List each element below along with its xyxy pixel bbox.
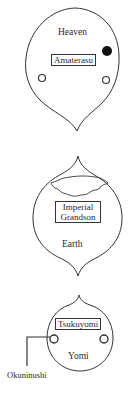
open-dot-left xyxy=(39,75,46,82)
open-dot-yomi-left xyxy=(50,335,58,343)
imperial-grandson-box: Imperial Grandson xyxy=(55,201,101,223)
earth-label: Earth xyxy=(62,239,83,249)
filled-dot xyxy=(102,46,112,56)
tsukuyomi-box: Tsukuyomi xyxy=(55,318,101,330)
okuninushi-pointer-line xyxy=(27,337,50,366)
heaven-label: Heaven xyxy=(58,27,87,37)
yomi-label: Yomi xyxy=(68,351,89,361)
open-dot-right xyxy=(103,77,110,84)
earth-torn-rim xyxy=(51,176,108,196)
open-dot-yomi-right xyxy=(100,335,108,343)
imperial-grandson-line2: Grandson xyxy=(58,212,98,222)
amaterasu-box: Amaterasu xyxy=(51,54,96,66)
imperial-grandson-line1: Imperial xyxy=(58,202,98,212)
okuninushi-label: Okuninushi xyxy=(7,370,47,380)
